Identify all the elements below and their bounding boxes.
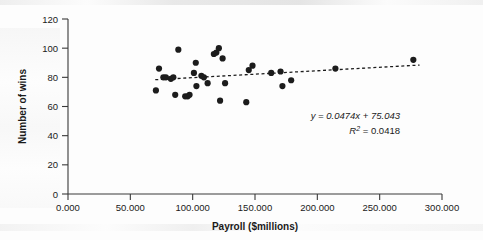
data-point xyxy=(156,65,162,71)
data-point xyxy=(153,87,159,93)
scatter-chart-figure: 0 20 40 60 80 100 120 0.000 50.000 100.0… xyxy=(0,0,483,240)
data-points-group xyxy=(153,45,417,105)
x-tick-label-150: 150.000 xyxy=(238,202,272,213)
x-tick-label-50: 50.000 xyxy=(116,202,145,213)
y-tick-label-100: 100 xyxy=(42,43,58,54)
y-axis-title: Number of wins xyxy=(17,69,28,144)
data-point xyxy=(277,68,283,74)
data-point xyxy=(217,98,223,104)
y-axis-tick-labels: 0 20 40 60 80 100 120 xyxy=(42,14,58,200)
data-point xyxy=(243,99,249,105)
data-point xyxy=(222,80,228,86)
y-tick-label-60: 60 xyxy=(47,101,58,112)
data-point xyxy=(249,63,255,69)
data-point xyxy=(288,77,294,83)
x-tick-label-0: 0.000 xyxy=(56,202,80,213)
x-axis-title: Payroll ($millions) xyxy=(212,221,298,232)
regression-equation: y = 0.0474x + 75.043 xyxy=(310,110,401,121)
data-point xyxy=(193,60,199,66)
y-tick-label-0: 0 xyxy=(53,189,58,200)
r-squared-annotation: R2 = 0.0418 xyxy=(349,125,400,137)
data-point xyxy=(279,83,285,89)
data-point xyxy=(191,70,197,76)
x-axis-ticks xyxy=(68,194,442,200)
data-point xyxy=(175,47,181,53)
y-tick-label-120: 120 xyxy=(42,14,58,25)
x-tick-label-200: 200.000 xyxy=(300,202,334,213)
data-point xyxy=(268,70,274,76)
x-axis-tick-labels: 0.000 50.000 100.000 150.000 200.000 250… xyxy=(56,202,459,213)
data-point xyxy=(332,65,338,71)
r-squared-value: = 0.0418 xyxy=(360,125,400,136)
y-tick-label-80: 80 xyxy=(47,72,58,83)
payroll-vs-wins-scatter-plot: 0 20 40 60 80 100 120 0.000 50.000 100.0… xyxy=(0,0,483,240)
data-point xyxy=(186,92,192,98)
data-point xyxy=(205,80,211,86)
y-axis-ticks xyxy=(62,19,68,194)
x-tick-label-300: 300.000 xyxy=(425,202,459,213)
data-point xyxy=(170,74,176,80)
x-tick-label-250: 250.000 xyxy=(362,202,396,213)
y-tick-label-40: 40 xyxy=(47,130,58,141)
data-point xyxy=(172,92,178,98)
data-point xyxy=(201,74,207,80)
data-point xyxy=(219,55,225,61)
regression-annotation: y = 0.0474x + 75.043 R2 = 0.0418 xyxy=(310,110,401,136)
y-tick-label-20: 20 xyxy=(47,159,58,170)
x-tick-label-100: 100.000 xyxy=(175,202,209,213)
data-point xyxy=(410,57,416,63)
data-point xyxy=(216,45,222,51)
data-point xyxy=(193,83,199,89)
